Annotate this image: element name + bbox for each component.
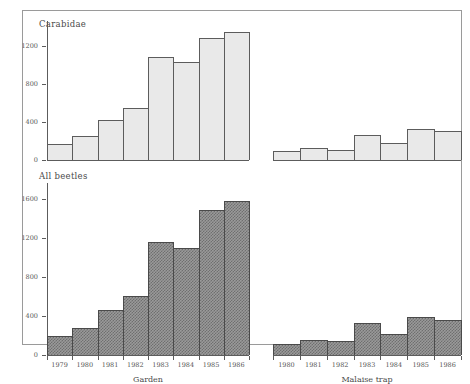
baseline-malaise-trap (273, 355, 461, 356)
bar (148, 57, 174, 160)
y-tick (42, 238, 46, 239)
x-tick (98, 356, 99, 360)
y-tick (42, 316, 46, 317)
x-tick (327, 356, 328, 360)
x-tick (224, 356, 225, 360)
bar (123, 108, 149, 160)
x-tick-label: 1981 (98, 362, 122, 369)
bar (327, 341, 355, 355)
y-tick (42, 199, 46, 200)
bar (72, 328, 98, 355)
x-tick (47, 356, 48, 360)
y-tick-label: 400 (12, 119, 38, 126)
x-tick-label: 1985 (199, 362, 223, 369)
panel-carabidae: Carabidae 04008001200 (23, 11, 461, 161)
bar (123, 296, 149, 355)
x-tick-label: 1986 (436, 362, 460, 369)
bar (173, 248, 199, 355)
y-tick-label: 800 (12, 274, 38, 281)
bar (148, 242, 174, 355)
bar (354, 323, 382, 355)
x-tick-label: 1983 (149, 362, 173, 369)
x-tick-label: 1979 (48, 362, 72, 369)
y-tick (42, 122, 46, 123)
y-tick (42, 46, 46, 47)
x-tick (173, 356, 174, 360)
bar (407, 317, 435, 355)
x-tick (380, 356, 381, 360)
x-tick-label: 1982 (123, 362, 147, 369)
y-tick-label: 800 (12, 81, 38, 88)
group-label: Garden (47, 375, 249, 384)
x-tick-label: 1980 (73, 362, 97, 369)
y-axis-line (47, 183, 48, 355)
x-tick (273, 356, 274, 360)
bar (72, 136, 98, 160)
bar (173, 62, 199, 160)
x-tick-label: 1984 (174, 362, 198, 369)
y-tick-label: 0 (12, 352, 38, 359)
y-tick-label: 400 (12, 313, 38, 320)
x-tick (354, 356, 355, 360)
x-tick-label: 1986 (224, 362, 248, 369)
y-tick (42, 84, 46, 85)
x-tick-label: 1982 (328, 362, 352, 369)
x-tick (72, 356, 73, 360)
y-tick (42, 355, 46, 356)
y-tick-label: 1200 (12, 43, 38, 50)
bar (47, 144, 73, 160)
plot-frame: Carabidae 04008001200 All beetles 040080… (22, 10, 462, 345)
x-tick (249, 356, 250, 360)
bar (224, 32, 250, 160)
bar (380, 334, 408, 355)
x-tick-label: 1985 (409, 362, 433, 369)
bar (47, 336, 73, 355)
bar (98, 120, 124, 160)
bar (434, 320, 462, 355)
panel-title-all-beetles: All beetles (39, 171, 88, 181)
x-tick (461, 356, 462, 360)
bar (434, 131, 462, 160)
bar (407, 129, 435, 160)
x-tick (199, 356, 200, 360)
x-tick (300, 356, 301, 360)
bar (300, 148, 328, 160)
x-tick-label: 1983 (355, 362, 379, 369)
x-tick-label: 1984 (382, 362, 406, 369)
bar (300, 340, 328, 355)
bar (199, 38, 225, 160)
bar (98, 310, 124, 355)
bar (380, 143, 408, 160)
y-tick (42, 277, 46, 278)
y-axis-line (47, 21, 48, 160)
bar (273, 344, 301, 355)
panel-all-beetles: All beetles 040080012001600 197919801981… (23, 161, 461, 344)
x-tick (123, 356, 124, 360)
x-tick (434, 356, 435, 360)
bar (327, 150, 355, 160)
bar (354, 135, 382, 160)
group-label: Malaise trap (273, 375, 461, 384)
x-tick (148, 356, 149, 360)
bar (199, 210, 225, 355)
y-tick-label: 1200 (12, 235, 38, 242)
bar (224, 201, 250, 355)
x-tick-label: 1981 (301, 362, 325, 369)
bar (273, 151, 301, 160)
y-tick-label: 1600 (12, 196, 38, 203)
x-tick (407, 356, 408, 360)
x-tick-label: 1980 (274, 362, 298, 369)
